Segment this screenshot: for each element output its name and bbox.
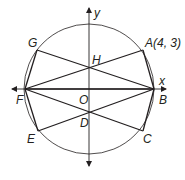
- chord-FA: [25, 50, 143, 89]
- point-label-C: C: [143, 132, 152, 146]
- point-label-A: A(4, 3): [144, 36, 181, 50]
- point-label-B: B: [159, 93, 167, 107]
- point-label-O: O: [79, 93, 88, 107]
- point-label-E: E: [27, 132, 36, 146]
- point-label-F: F: [16, 93, 24, 107]
- point-label-D: D: [80, 116, 89, 130]
- point-label-G: G: [28, 36, 37, 50]
- x-axis-label: x: [158, 74, 166, 88]
- diagram-canvas: y x G A(4, 3) H F O B D E C: [0, 0, 185, 180]
- chord-BA: [143, 50, 154, 89]
- chord-BC: [143, 89, 154, 131]
- chord-EB: [38, 89, 154, 131]
- y-axis-label: y: [93, 6, 101, 20]
- chord-FE: [25, 89, 38, 131]
- point-label-H: H: [92, 53, 101, 67]
- geometry-diagram: y x G A(4, 3) H F O B D E C: [0, 0, 185, 180]
